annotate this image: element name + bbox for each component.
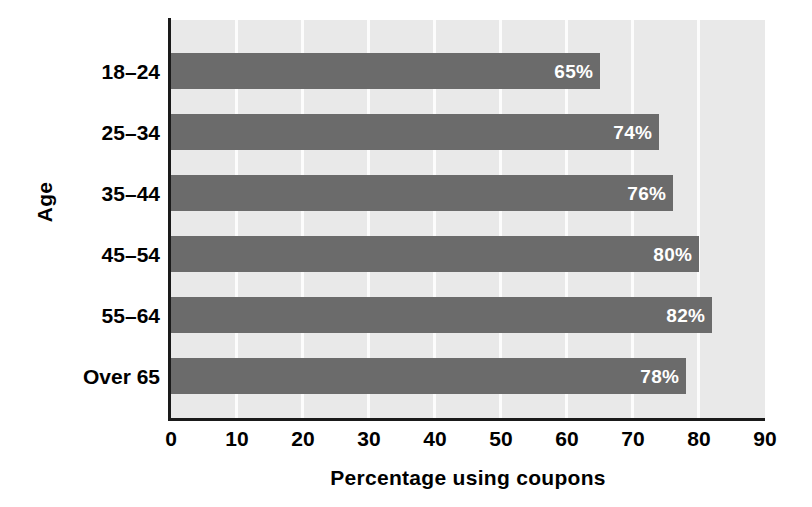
bar-value-label: 82% xyxy=(666,306,712,325)
x-axis-title: Percentage using coupons xyxy=(171,466,765,490)
bar-value-label: 74% xyxy=(613,123,659,142)
y-axis-line xyxy=(168,18,171,420)
plot-area: 65% 74% 76% 80% 82% 78% xyxy=(171,20,765,418)
x-tick-label-20: 20 xyxy=(273,428,333,449)
x-tick-label-80: 80 xyxy=(669,428,729,449)
x-tick-label-60: 60 xyxy=(537,428,597,449)
bar-row[interactable]: 65% xyxy=(171,53,600,89)
x-tick-label-50: 50 xyxy=(471,428,531,449)
bar-row[interactable]: 82% xyxy=(171,297,712,333)
x-tick-label-40: 40 xyxy=(405,428,465,449)
bar-row[interactable]: 80% xyxy=(171,236,699,272)
x-tick-label-30: 30 xyxy=(339,428,399,449)
x-tick-label-90: 90 xyxy=(735,428,795,449)
y-tick-label-18-24: 18–24 xyxy=(0,61,160,82)
bar-value-label: 80% xyxy=(653,245,699,264)
y-tick-label-45-54: 45–54 xyxy=(0,244,160,265)
x-axis-line xyxy=(168,418,765,421)
y-tick-label-35-44: 35–44 xyxy=(0,183,160,204)
gridline-80 xyxy=(697,20,700,418)
bar-value-label: 65% xyxy=(554,62,600,81)
bar-row[interactable]: 76% xyxy=(171,175,673,211)
bar-chart: 65% 74% 76% 80% 82% 78% 18–24 25–34 35–4… xyxy=(0,0,812,507)
y-axis-title: Age xyxy=(33,171,57,233)
x-tick-label-0: 0 xyxy=(141,428,201,449)
bar-row[interactable]: 74% xyxy=(171,114,659,150)
x-tick-label-10: 10 xyxy=(207,428,267,449)
bar-value-label: 78% xyxy=(640,367,686,386)
y-tick-label-55-64: 55–64 xyxy=(0,305,160,326)
bar-row[interactable]: 78% xyxy=(171,358,686,394)
bar-value-label: 76% xyxy=(627,184,673,203)
x-tick-label-70: 70 xyxy=(603,428,663,449)
y-tick-label-over-65: Over 65 xyxy=(0,366,160,387)
y-tick-label-25-34: 25–34 xyxy=(0,122,160,143)
